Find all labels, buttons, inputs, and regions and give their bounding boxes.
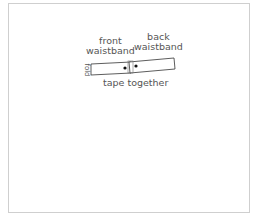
front-dot-marker [123,66,126,69]
waistband-diagram [0,0,257,223]
back-dot-marker [134,64,137,67]
